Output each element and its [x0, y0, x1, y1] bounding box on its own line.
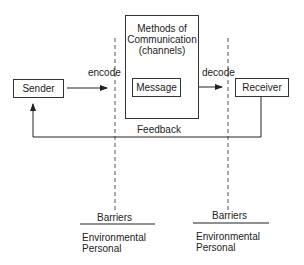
- message-node: Message: [132, 78, 181, 97]
- encode-label: encode: [88, 67, 121, 78]
- barrier-item-right-1: Environmental: [196, 231, 260, 242]
- barrier-item-right-2: Personal: [196, 242, 235, 253]
- barrier-title-left: Barriers: [97, 212, 132, 223]
- channel-title-line-3: (channels): [126, 45, 198, 56]
- barrier-item-left-1: Environmental: [82, 232, 146, 243]
- receiver-label: Receiver: [242, 82, 281, 93]
- channel-title-line-1: Methods of: [126, 23, 198, 34]
- channel-node: Methods of Communication (channels): [125, 15, 199, 119]
- channel-title-line-2: Communication: [126, 34, 198, 45]
- barrier-title-right: Barriers: [212, 210, 247, 221]
- decode-label: decode: [202, 67, 235, 78]
- sender-label: Sender: [22, 83, 54, 94]
- sender-node: Sender: [13, 79, 64, 98]
- message-label: Message: [136, 82, 177, 93]
- feedback-label: Feedback: [137, 124, 181, 135]
- barrier-item-left-2: Personal: [82, 243, 121, 254]
- receiver-node: Receiver: [235, 78, 289, 97]
